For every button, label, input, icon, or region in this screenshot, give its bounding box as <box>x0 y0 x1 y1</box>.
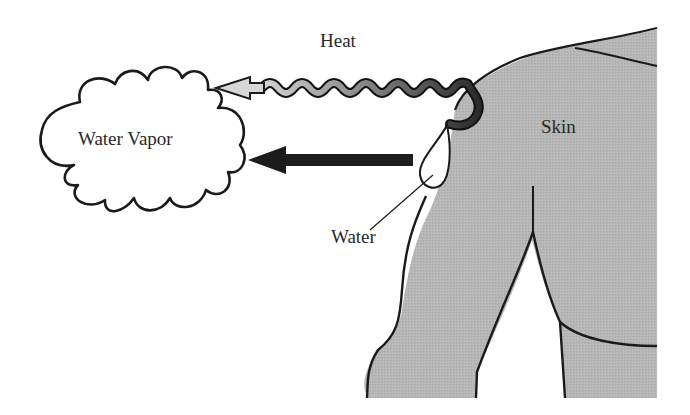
water-vapor-arrow <box>248 146 413 174</box>
evaporation-diagram: Heat Water Vapor Skin Water <box>0 0 690 415</box>
diagram-canvas <box>0 0 690 415</box>
skin-label: Skin <box>541 116 576 138</box>
water-label: Water <box>331 226 376 248</box>
water-vapor-label: Water Vapor <box>78 128 173 150</box>
heat-label: Heat <box>320 30 356 52</box>
heat-arrow <box>216 77 479 126</box>
